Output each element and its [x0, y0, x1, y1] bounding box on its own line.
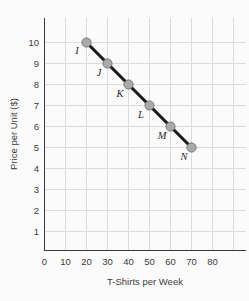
y-tick-label: 6 [34, 121, 39, 132]
y-tick-label: 5 [34, 142, 39, 153]
y-tick-label: 8 [34, 79, 39, 90]
x-tick-label: 10 [60, 256, 71, 267]
x-tick-label: 0 [42, 256, 47, 267]
data-point-marker[interactable] [187, 143, 196, 152]
y-axis-title: Price per Unit ($) [8, 98, 19, 170]
x-tick-label: 60 [165, 256, 176, 267]
point-label-j: J [97, 67, 103, 78]
data-point-marker[interactable] [103, 59, 112, 68]
y-tick-label: 10 [28, 37, 39, 48]
demand-curve-line [87, 43, 192, 148]
data-point-labels: I J K L M N [74, 45, 188, 162]
y-tick-label: 1 [34, 226, 39, 237]
y-tick-label: 4 [34, 163, 39, 174]
x-tick-label: 40 [123, 256, 134, 267]
data-point-marker[interactable] [82, 38, 91, 47]
x-axis-title: T-Shirts per Week [107, 276, 183, 287]
demand-curve-chart: 10 9 8 7 6 5 4 3 2 1 0 10 20 30 40 50 60… [0, 0, 249, 301]
gridlines-horizontal [44, 43, 246, 232]
x-tick-label: 30 [102, 256, 113, 267]
point-label-l: L [137, 109, 144, 120]
x-tick-label: 80 [207, 256, 218, 267]
data-point-marker[interactable] [145, 101, 154, 110]
point-label-n: N [179, 151, 188, 162]
point-label-m: M [157, 130, 168, 141]
y-tick-labels: 10 9 8 7 6 5 4 3 2 1 [28, 37, 39, 237]
x-tick-labels: 0 10 20 30 40 50 60 70 80 [42, 256, 218, 267]
data-point-marker[interactable] [124, 80, 133, 89]
point-label-i: I [74, 45, 79, 56]
data-point-marker[interactable] [166, 122, 175, 131]
y-tick-label: 3 [34, 184, 39, 195]
y-tick-label: 9 [34, 58, 39, 69]
y-tick-label: 2 [34, 205, 39, 216]
chart-screenshot: 10 9 8 7 6 5 4 3 2 1 0 10 20 30 40 50 60… [0, 0, 249, 301]
point-label-k: K [115, 88, 124, 99]
gridlines-vertical [66, 18, 234, 250]
x-tick-label: 50 [144, 256, 155, 267]
x-tick-label: 70 [186, 256, 197, 267]
y-tick-label: 7 [34, 100, 39, 111]
x-tick-label: 20 [81, 256, 92, 267]
